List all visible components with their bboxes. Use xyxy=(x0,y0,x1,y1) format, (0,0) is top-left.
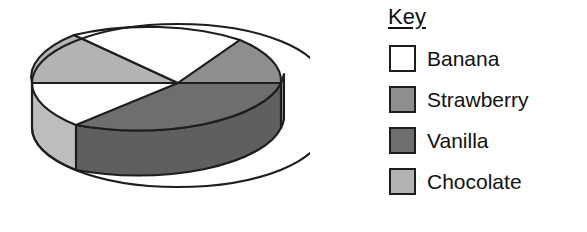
legend-swatch-strawberry xyxy=(389,86,416,113)
legend-title: Key xyxy=(388,4,586,30)
legend: Key Banana Strawberry Vanilla Chocolate xyxy=(386,4,586,228)
legend-label-chocolate: Chocolate xyxy=(427,170,522,194)
legend-label-vanilla: Vanilla xyxy=(427,129,488,153)
legend-label-strawberry: Strawberry xyxy=(427,88,529,112)
legend-swatch-banana xyxy=(389,45,416,72)
pie-side-chocolate xyxy=(32,83,76,170)
legend-label-banana: Banana xyxy=(427,47,499,71)
legend-item-vanilla: Vanilla xyxy=(386,120,586,161)
legend-swatch-chocolate xyxy=(389,168,416,195)
legend-swatch-vanilla xyxy=(389,127,416,154)
pie-chart-svg xyxy=(0,0,310,232)
legend-item-strawberry: Strawberry xyxy=(386,79,586,120)
pie-chart-3d xyxy=(0,0,310,232)
legend-item-banana: Banana xyxy=(386,38,586,79)
chart-canvas: Key Banana Strawberry Vanilla Chocolate xyxy=(0,0,587,232)
legend-item-chocolate: Chocolate xyxy=(386,161,586,202)
